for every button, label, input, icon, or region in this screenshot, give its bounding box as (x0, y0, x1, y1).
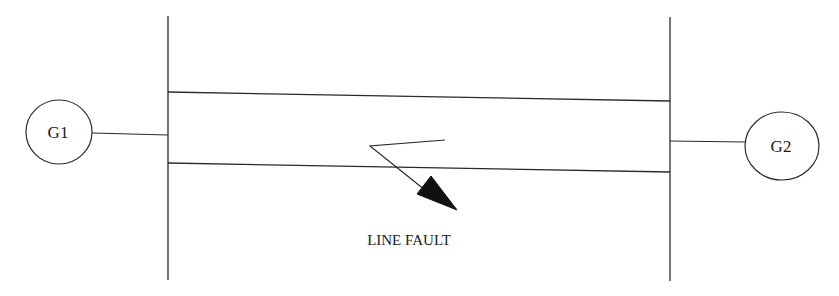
g1-connection-line (92, 133, 168, 135)
generator-g1: G1 (26, 100, 92, 164)
power-system-diagram: G1 G2 LINE FAULT (0, 0, 839, 296)
transmission-line-1 (168, 92, 670, 101)
generator-g2-label: G2 (771, 137, 792, 156)
line-fault-label: LINE FAULT (367, 232, 451, 248)
generator-g2: G2 (745, 112, 819, 180)
fault-arrow-icon (370, 140, 457, 210)
generator-g1-label: G1 (48, 123, 69, 142)
transmission-line-2 (168, 163, 670, 172)
g2-connection-line (670, 141, 745, 142)
